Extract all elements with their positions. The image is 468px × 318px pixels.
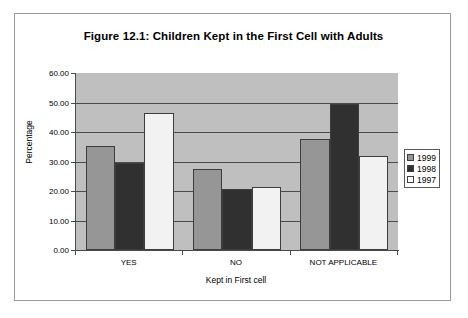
x-category-label: NO	[230, 258, 242, 267]
legend-swatch-icon	[407, 176, 414, 183]
bar-1999-no	[193, 169, 222, 250]
legend-item-label: 1997	[417, 175, 436, 185]
bar-1997-no	[252, 187, 281, 250]
bar-1998-yes	[115, 163, 144, 250]
y-tick-label: 50.00	[49, 98, 69, 107]
legend-item-label: 1999	[417, 153, 436, 163]
legend-swatch-icon	[407, 154, 414, 161]
x-category-label: YES	[121, 258, 137, 267]
bar-1999-not-applicable	[300, 139, 329, 251]
figure-frame: Figure 12.1: Children Kept in the First …	[14, 13, 451, 301]
bar-1997-not-applicable	[359, 156, 388, 250]
bar-1998-not-applicable	[330, 104, 359, 250]
bar-1997-yes	[144, 113, 173, 250]
legend-swatch-icon	[407, 165, 414, 172]
y-axis-title: Percentage	[24, 102, 34, 182]
x-category-label: NOT APPLICABLE	[310, 258, 377, 267]
legend-item-1997[interactable]: 1997	[407, 174, 436, 185]
x-tick-mark	[75, 251, 76, 255]
bar-1998-no	[222, 189, 251, 250]
bar-1999-yes	[86, 146, 115, 250]
x-tick-mark	[182, 251, 183, 255]
x-tick-mark	[290, 251, 291, 255]
y-tick-label: 20.00	[49, 187, 69, 196]
legend-item-1999[interactable]: 1999	[407, 152, 436, 163]
plot-area	[75, 73, 398, 250]
y-tick-label: 10.00	[49, 216, 69, 225]
x-tick-mark	[397, 251, 398, 255]
y-tick-label: 30.00	[49, 157, 69, 166]
x-axis-title: Kept in First cell	[75, 275, 397, 285]
y-tick-label: 60.00	[49, 69, 69, 78]
x-axis-line	[75, 250, 399, 251]
legend-item-1998[interactable]: 1998	[407, 163, 436, 174]
legend-item-label: 1998	[417, 164, 436, 174]
y-tick-label: 0.00	[53, 246, 69, 255]
chart-legend: 199919981997	[404, 149, 440, 188]
chart-title: Figure 12.1: Children Kept in the First …	[15, 30, 452, 42]
y-tick-label: 40.00	[49, 128, 69, 137]
